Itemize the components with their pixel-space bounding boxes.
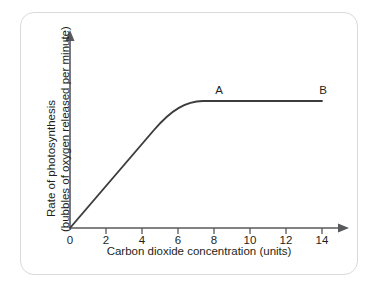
figure-root: 0 2 4 6 8 10 12 14 A B Carbon dioxide co… [0,0,368,288]
x-axis-title: Carbon dioxide concentration (units) [68,245,330,257]
x-axis-arrow-icon [338,224,349,233]
y-axis-title-line-1: Rate of photosynthesis [45,100,57,217]
y-axis-title-line-2: (bubbles of oxygen released per minute) [59,26,71,232]
annotation-label-a: A [209,84,229,96]
annotation-label-b: B [313,84,333,96]
photosynthesis-rate-curve [70,101,322,228]
